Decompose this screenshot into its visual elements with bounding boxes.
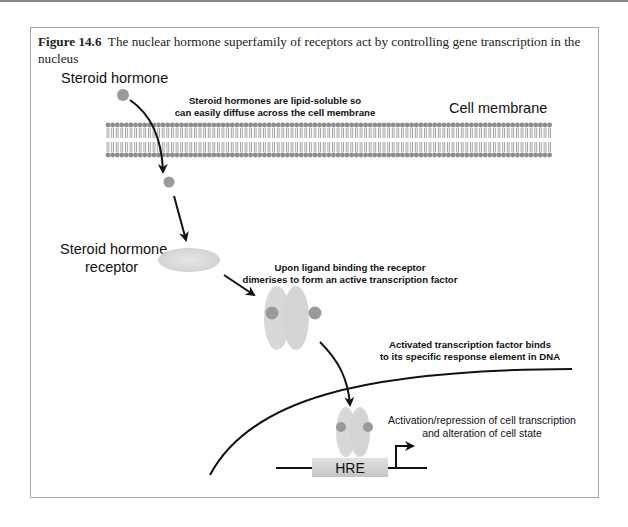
- to-receptor-arrow: [174, 196, 186, 240]
- lipid-head: [405, 123, 410, 128]
- lipid-head: [313, 123, 318, 128]
- dimer-note-line2: dimerises to form an active transcriptio…: [243, 274, 458, 285]
- lipid-head: [290, 123, 295, 128]
- hre-label: HRE: [335, 460, 365, 476]
- lipid-head: [382, 153, 387, 158]
- lipid-head: [124, 123, 129, 128]
- lipid-head: [506, 123, 511, 128]
- lipid-head: [225, 123, 230, 128]
- lipid-head: [395, 153, 400, 158]
- lipid-head: [372, 153, 377, 158]
- lipid-head: [428, 153, 433, 158]
- lipid-head: [529, 123, 534, 128]
- lipid-head: [271, 123, 276, 128]
- lipid-head: [253, 123, 258, 128]
- lipid-head: [469, 153, 474, 158]
- lipid-head: [142, 153, 147, 158]
- lipid-head: [202, 123, 207, 128]
- lipid-head: [179, 123, 184, 128]
- lipid-head: [230, 153, 235, 158]
- lipid-head: [211, 153, 216, 158]
- lipid-head: [326, 123, 331, 128]
- dimer-note-line1: Upon ligand binding the receptor: [275, 262, 426, 273]
- lipid-head: [520, 123, 525, 128]
- lipid-head: [303, 123, 308, 128]
- lipid-head: [129, 153, 134, 158]
- lipid-head: [234, 153, 239, 158]
- binds-note-line2: to its specific response element in DNA: [380, 351, 560, 362]
- lipid-head: [142, 123, 147, 128]
- lipid-head: [115, 123, 120, 128]
- lipid-head: [276, 153, 281, 158]
- lipid-head: [317, 153, 322, 158]
- lipid-head: [520, 153, 525, 158]
- lipid-head: [322, 123, 327, 128]
- lipid-head: [538, 153, 543, 158]
- lipid-head: [533, 153, 538, 158]
- lipid-head: [188, 153, 193, 158]
- lipid-head: [198, 153, 203, 158]
- lipid-head: [547, 153, 552, 158]
- lipid-head: [501, 153, 506, 158]
- lipid-head: [446, 123, 451, 128]
- lipid-head: [262, 123, 267, 128]
- binds-note-line1: Activated transcription factor binds: [389, 339, 551, 350]
- lipid-head: [331, 153, 336, 158]
- lipid-head: [423, 123, 428, 128]
- lipid-head: [409, 153, 414, 158]
- lipid-head: [129, 123, 134, 128]
- lipid-head: [294, 153, 299, 158]
- lipid-head: [299, 123, 304, 128]
- lipid-head: [110, 153, 115, 158]
- lipid-head: [423, 153, 428, 158]
- lipid-head: [455, 153, 460, 158]
- lipid-head: [119, 153, 124, 158]
- lipid-head: [414, 153, 419, 158]
- diffuse-note-line1: Steroid hormones are lipid-soluble so: [189, 95, 361, 106]
- lipid-head: [110, 123, 115, 128]
- lipid-head: [276, 123, 281, 128]
- lipid-head: [386, 153, 391, 158]
- lipid-head: [506, 153, 511, 158]
- lipid-head: [437, 123, 442, 128]
- lipid-head: [529, 153, 534, 158]
- lipid-head: [207, 153, 212, 158]
- lipid-head: [363, 153, 368, 158]
- cell-membrane-label: Cell membrane: [449, 100, 547, 116]
- lipid-head: [382, 123, 387, 128]
- lipid-head: [184, 123, 189, 128]
- lipid-head: [460, 123, 465, 128]
- lipid-head: [451, 123, 456, 128]
- lipid-head: [221, 123, 226, 128]
- lipid-head: [331, 123, 336, 128]
- lipid-head: [313, 153, 318, 158]
- lipid-head: [133, 153, 138, 158]
- lipid-head: [451, 153, 456, 158]
- lipid-head: [161, 123, 166, 128]
- lipid-head: [464, 153, 469, 158]
- lipid-head: [138, 123, 143, 128]
- lipid-head: [464, 123, 469, 128]
- steroid-hormone-label: Steroid hormone: [61, 70, 168, 86]
- diagram-canvas: Steroid hormone Steroid hormones are lip…: [0, 0, 628, 527]
- lipid-head: [340, 153, 345, 158]
- lipid-head: [474, 153, 479, 158]
- lipid-head: [253, 153, 258, 158]
- lipid-head: [391, 153, 396, 158]
- lipid-head: [262, 153, 267, 158]
- lipid-head: [359, 153, 364, 158]
- lipid-head: [469, 123, 474, 128]
- lipid-head: [345, 153, 350, 158]
- lipid-head: [354, 123, 359, 128]
- lipid-head: [354, 153, 359, 158]
- lipid-head: [267, 123, 272, 128]
- bound-receptor-dimer: [336, 407, 373, 457]
- effect-note-line2: and alteration of cell state: [422, 427, 542, 439]
- lipid-head: [152, 153, 157, 158]
- lipid-head: [257, 153, 262, 158]
- lipid-head: [106, 123, 111, 128]
- lipid-head: [391, 123, 396, 128]
- lipid-head: [487, 153, 492, 158]
- lipid-head: [285, 123, 290, 128]
- lipid-head: [216, 153, 221, 158]
